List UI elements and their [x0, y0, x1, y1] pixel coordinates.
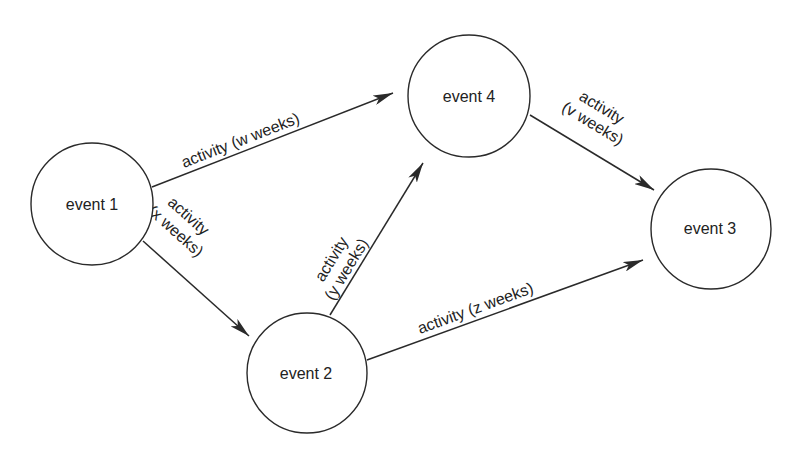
arrow-line — [367, 260, 643, 360]
node-event1: event 1 — [31, 143, 153, 265]
arrow-line — [152, 93, 393, 187]
node-event2: event 2 — [247, 313, 367, 433]
edge-event2-event4: activity (y weeks) — [311, 163, 423, 315]
edge-event1-event2: activity (x weeks) — [143, 193, 249, 336]
edge-event2-event3: activity (z weeks) — [367, 260, 643, 360]
node-label: event 2 — [280, 365, 333, 382]
edge-event1-event4: activity (w weeks) — [152, 93, 393, 187]
edge-label-z: activity (z weeks) — [415, 279, 535, 336]
edge-event4-event3: activity (v weeks) — [530, 87, 654, 190]
edge-label-w: activity (w weeks) — [179, 109, 302, 170]
node-label: event 4 — [443, 88, 496, 105]
node-event4: event 4 — [408, 35, 530, 157]
activity-network-diagram: activity (w weeks) activity (x weeks) ac… — [0, 0, 803, 461]
node-label: event 1 — [66, 196, 119, 213]
node-label: event 3 — [684, 220, 737, 237]
node-event3: event 3 — [651, 169, 771, 289]
